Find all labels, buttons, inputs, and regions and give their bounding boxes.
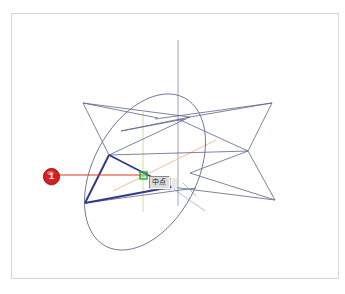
callout-badge-gloss xyxy=(47,171,54,175)
model-viewport[interactable]: 中点 1 xyxy=(0,0,345,294)
midpoint-snap-tooltip: 中点 xyxy=(149,176,170,189)
tooltip-shadow xyxy=(172,178,177,189)
viewport-frame xyxy=(11,13,339,279)
callout-badge-1[interactable]: 1 xyxy=(43,168,60,185)
